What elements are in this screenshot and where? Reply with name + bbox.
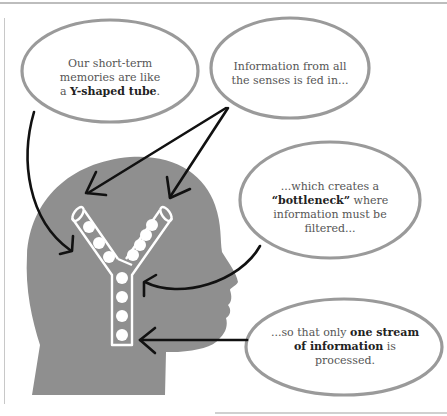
text-line: “bottleneck” where (255, 194, 405, 208)
text-line: information must be (255, 208, 405, 222)
text-line: Our short-term (38, 57, 182, 71)
bold-text: of information (294, 340, 383, 353)
text-line: ...so that only one stream (250, 326, 440, 340)
text-line: Information from all (215, 60, 365, 74)
text-line: the senses is fed in... (215, 74, 365, 88)
text-line: a Y-shaped tube. (38, 85, 182, 99)
bold-text: “bottleneck” (272, 194, 350, 207)
text-fragment: ...so that only (271, 326, 350, 339)
text-line: memories are like (38, 71, 182, 85)
text-fragment: is (383, 340, 396, 353)
bold-text: Y-shaped tube (70, 85, 157, 98)
text-line: processed. (250, 354, 440, 368)
text-fragment: . (157, 85, 161, 98)
text-fragment: a (60, 85, 70, 98)
text-line: ...which creates a (255, 180, 405, 194)
text-line: filtered... (255, 222, 405, 236)
bubble-text-y-tube: Our short-term memories are like a Y-sha… (38, 57, 182, 99)
text-fragment: where (350, 194, 388, 207)
bubble-text-one-stream: ...so that only one stream of informatio… (250, 326, 440, 368)
bold-text: one stream (350, 326, 419, 339)
text-line: of information is (250, 340, 440, 354)
bubble-text-senses: Information from all the senses is fed i… (215, 60, 365, 88)
bubble-text-bottleneck: ...which creates a “bottleneck” where in… (255, 180, 405, 236)
